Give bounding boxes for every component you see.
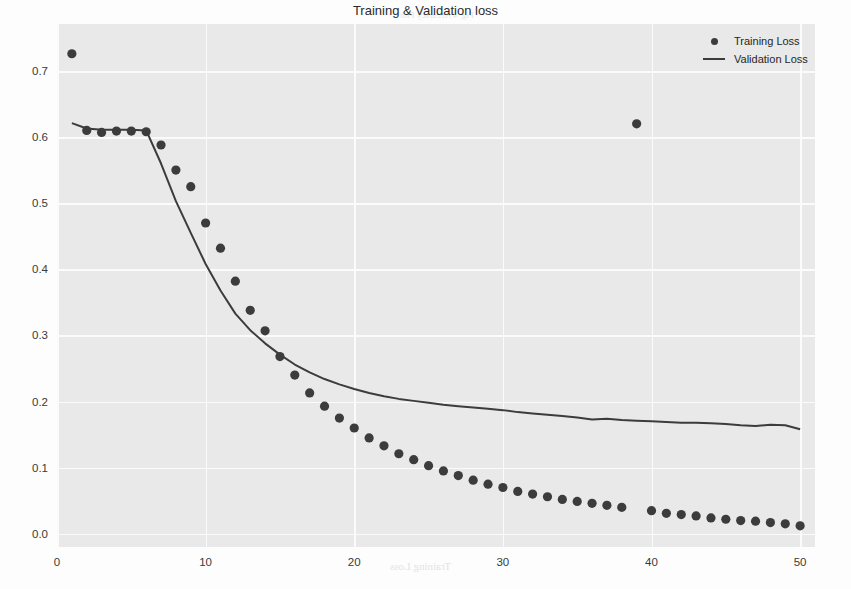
data-point (796, 521, 805, 530)
dot-marker-icon (700, 38, 728, 45)
y-tick-label-0.0: 0.0 (8, 528, 48, 540)
data-point (677, 510, 686, 519)
data-point (409, 455, 418, 464)
x-tick-label-10: 10 (199, 556, 212, 568)
y-tick-label-0.3: 0.3 (8, 329, 48, 341)
data-point (454, 471, 463, 480)
data-point (632, 119, 641, 128)
chart-title: Training & Validation loss (0, 3, 851, 18)
data-point (171, 166, 180, 175)
data-point (201, 218, 210, 227)
x-tick-label-30: 30 (496, 556, 509, 568)
data-point (216, 244, 225, 253)
data-point (127, 127, 136, 136)
data-point (186, 182, 195, 191)
y-tick-label-0.2: 0.2 (8, 396, 48, 408)
chart-legend: Training Loss Validation Loss (700, 32, 808, 68)
data-point (528, 490, 537, 499)
data-point (647, 506, 656, 515)
data-point (692, 511, 701, 520)
y-tick-label-0.1: 0.1 (8, 462, 48, 474)
data-point (350, 423, 359, 432)
data-point (706, 513, 715, 522)
data-point (587, 499, 596, 508)
data-point (766, 518, 775, 527)
data-point (246, 306, 255, 315)
line-marker-icon (700, 58, 728, 60)
data-point (469, 476, 478, 485)
data-point (573, 497, 582, 506)
y-tick-label-0.6: 0.6 (8, 131, 48, 143)
x-tick-label-0: 0 (54, 556, 60, 568)
legend-label-validation-loss: Validation Loss (728, 53, 808, 65)
y-tick-label-0.7: 0.7 (8, 65, 48, 77)
data-point (721, 515, 730, 524)
plot-area (57, 24, 815, 547)
x-tick-label-20: 20 (348, 556, 361, 568)
data-point (498, 483, 507, 492)
y-tick-label-0.4: 0.4 (8, 263, 48, 275)
data-point (231, 277, 240, 286)
scatter-training-loss (67, 49, 804, 530)
data-point (290, 370, 299, 379)
data-point (558, 495, 567, 504)
data-point (751, 517, 760, 526)
x-tick-label-50: 50 (794, 556, 807, 568)
data-point (379, 441, 388, 450)
data-point (394, 449, 403, 458)
line-validation-loss (72, 123, 800, 429)
data-point (156, 140, 165, 149)
data-point (483, 480, 492, 489)
legend-entry-training-loss: Training Loss (700, 32, 808, 50)
data-point (602, 501, 611, 510)
data-point (335, 413, 344, 422)
data-point (305, 388, 314, 397)
data-series-layer (57, 24, 815, 547)
data-point (439, 466, 448, 475)
data-point (543, 492, 552, 501)
chart-figure: Empirical Analysis of VLSI Implementatio… (0, 0, 851, 589)
data-point (513, 487, 522, 496)
data-point (365, 433, 374, 442)
data-point (781, 519, 790, 528)
y-tick-label-0.5: 0.5 (8, 197, 48, 209)
legend-entry-validation-loss: Validation Loss (700, 50, 808, 68)
data-point (424, 461, 433, 470)
data-point (617, 503, 626, 512)
data-point (736, 516, 745, 525)
data-point (320, 402, 329, 411)
data-point (662, 509, 671, 518)
x-tick-label-40: 40 (645, 556, 658, 568)
legend-label-training-loss: Training Loss (728, 35, 800, 47)
data-point (67, 49, 76, 58)
bleed-through-xlabel-ghost: Training Loss (390, 560, 451, 572)
data-point (112, 127, 121, 136)
data-point (260, 326, 269, 335)
